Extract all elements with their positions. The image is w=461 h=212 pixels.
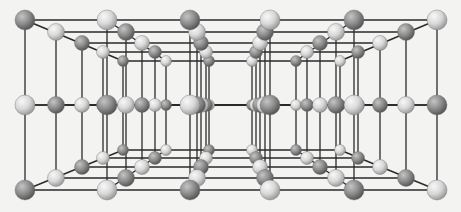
light-atom	[427, 180, 447, 200]
light-atom	[75, 98, 90, 113]
dark-atom	[398, 24, 415, 41]
light-atom	[135, 36, 150, 51]
light-atom	[161, 145, 172, 156]
light-atom	[48, 170, 65, 187]
dark-atom	[352, 46, 365, 59]
light-atom	[135, 160, 150, 175]
light-atom	[97, 152, 110, 165]
crystal-lattice-svg	[0, 0, 461, 212]
dark-atom	[75, 160, 90, 175]
dark-atom	[15, 180, 35, 200]
light-atom	[335, 56, 346, 67]
light-atom	[260, 10, 280, 30]
dark-atom	[291, 145, 302, 156]
dark-atom	[373, 98, 388, 113]
dark-atom	[97, 95, 117, 115]
dark-atom	[180, 10, 200, 30]
light-atom	[373, 160, 388, 175]
dark-atom	[118, 170, 135, 187]
light-atom	[97, 46, 110, 59]
light-atom	[149, 99, 162, 112]
light-atom	[301, 46, 314, 59]
dark-atom	[313, 36, 328, 51]
dark-atom	[260, 95, 280, 115]
dark-atom	[301, 99, 314, 112]
dark-atom	[328, 97, 345, 114]
dark-atom	[149, 46, 162, 59]
light-atom	[328, 24, 345, 41]
light-atom	[335, 145, 346, 156]
dark-atom	[344, 10, 364, 30]
dark-atom	[149, 152, 162, 165]
light-atom	[118, 97, 135, 114]
dark-atom	[161, 100, 172, 111]
light-atom	[301, 152, 314, 165]
dark-atom	[135, 98, 150, 113]
light-atom	[328, 170, 345, 187]
light-atom	[48, 24, 65, 41]
dark-atom	[180, 180, 200, 200]
dark-atom	[15, 10, 35, 30]
light-atom	[260, 180, 280, 200]
light-atom	[344, 95, 364, 115]
dark-atom	[352, 152, 365, 165]
dark-atom	[48, 97, 65, 114]
light-atom	[291, 100, 302, 111]
dark-atom	[118, 24, 135, 41]
light-atom	[15, 95, 35, 115]
light-atom	[161, 56, 172, 67]
lattice-diagram	[0, 0, 461, 212]
light-atom	[373, 36, 388, 51]
dark-atom	[75, 36, 90, 51]
dark-atom	[118, 145, 129, 156]
dark-atom	[118, 56, 129, 67]
dark-atom	[398, 170, 415, 187]
light-atom	[97, 180, 117, 200]
light-atom	[313, 98, 328, 113]
light-atom	[97, 10, 117, 30]
light-atom	[398, 97, 415, 114]
light-atom	[427, 10, 447, 30]
dark-atom	[313, 160, 328, 175]
light-atom	[180, 95, 200, 115]
dark-atom	[291, 56, 302, 67]
dark-atom	[427, 95, 447, 115]
dark-atom	[344, 180, 364, 200]
